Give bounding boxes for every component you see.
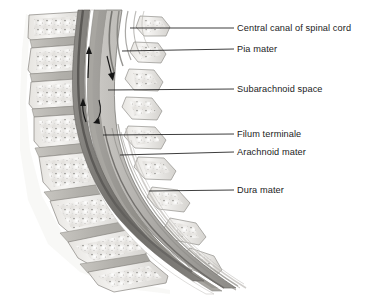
label-filum-terminale: Filum terminale <box>237 129 301 139</box>
label-pia-mater: Pia mater <box>237 44 277 54</box>
label-central-canal: Central canal of spinal cord <box>237 23 351 33</box>
spinal-cord-illustration <box>0 0 383 296</box>
leader-line-filum-terminale <box>103 134 234 135</box>
label-arachnoid-mater: Arachnoid mater <box>237 147 306 157</box>
anatomy-figure: Central canal of spinal cordPia materSub… <box>0 0 383 296</box>
label-subarachnoid-space: Subarachnoid space <box>237 84 323 94</box>
leader-line-subarachnoid-space <box>108 89 234 90</box>
label-dura-mater: Dura mater <box>237 185 284 195</box>
leader-line-arachnoid-mater <box>120 152 234 155</box>
